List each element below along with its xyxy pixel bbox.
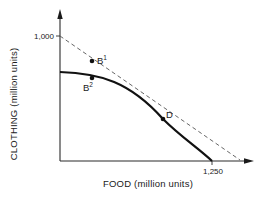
point-b2 [90, 76, 95, 81]
x-axis-arrow-icon [244, 158, 254, 163]
point-d [161, 117, 166, 122]
y-tick-label: 1,000 [34, 32, 55, 41]
x-tick-label: 1,250 [203, 167, 224, 176]
y-axis-title: CLOTHING (million units) [8, 48, 19, 160]
x-axis-title: FOOD (million units) [103, 178, 193, 189]
label-b2: B2 [83, 81, 93, 93]
point-b1 [90, 59, 95, 64]
ppf-chart: B1 B2 D 1,000 1,250 FOOD (million units)… [0, 0, 265, 200]
y-axis-arrow-icon [57, 9, 62, 19]
label-d: D [166, 109, 173, 120]
y-axis [56, 9, 63, 161]
x-axis [60, 158, 254, 165]
dashed-trade-line [60, 36, 240, 160]
label-b1: B1 [97, 54, 107, 66]
